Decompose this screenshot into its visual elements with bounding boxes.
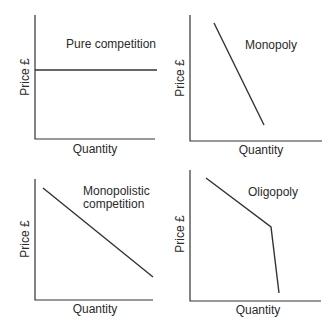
axes [190,15,322,141]
axes [35,15,155,139]
x-axis-label: Quantity [73,142,118,156]
y-axis-label: Price £ [173,59,187,97]
panel-title: Oligopoly [248,185,298,199]
panel-monopolistic-competition: Monopolistic competition Quantity Price … [18,179,153,316]
market-structures-diagram: Pure competition Quantity Price £ Monopo… [0,0,329,330]
y-axis-label: Price £ [18,58,32,96]
y-axis-label: Price £ [173,215,187,253]
x-axis-label: Quantity [236,303,281,317]
panel-monopoly: Monopoly Quantity Price £ [173,15,322,157]
y-axis-label: Price £ [18,220,32,258]
panel-title: Pure competition [66,37,156,51]
panel-title-line-1: Monopolistic [83,184,150,198]
panel-pure-competition: Pure competition Quantity Price £ [18,15,157,156]
x-axis-label: Quantity [73,302,118,316]
panel-title: Monopoly [245,38,297,52]
panel-oligopoly: Oligopoly Quantity Price £ [173,170,321,317]
x-axis-label: Quantity [239,143,284,157]
panel-title-line-2: competition [83,197,144,211]
